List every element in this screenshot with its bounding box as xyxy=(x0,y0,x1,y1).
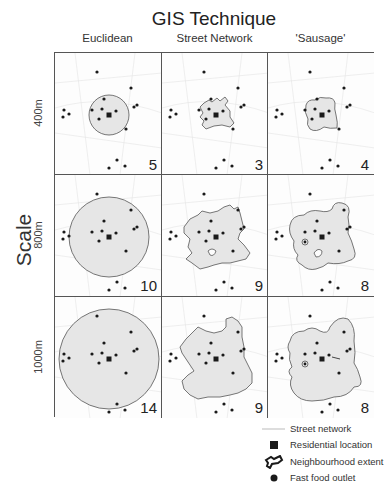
residential-location xyxy=(107,235,112,240)
map-sausage-1000m xyxy=(268,297,374,418)
outlet-count: 14 xyxy=(140,399,157,416)
outlet-count: 8 xyxy=(361,399,369,416)
map-street-network-400m xyxy=(162,53,268,175)
neighbourhood-extent xyxy=(288,318,361,401)
map-panel-sausage-400m: 4 xyxy=(267,53,374,175)
outlet-count: 10 xyxy=(140,277,157,294)
map-grid: 5 3 xyxy=(54,52,374,417)
map-panel-sausage-1000m: 8 xyxy=(267,296,374,418)
residential-location xyxy=(214,113,219,118)
map-sausage-800m xyxy=(268,175,374,296)
map-panel-euclidean-1000m: 14 xyxy=(55,296,162,418)
legend-item-street-network: Street network xyxy=(258,422,391,436)
residential-location xyxy=(320,357,325,362)
street-line-icon xyxy=(258,422,288,436)
polygon-outline-icon xyxy=(258,455,288,469)
outlet-count: 3 xyxy=(255,156,263,173)
row-label-800m: 800m xyxy=(28,174,48,296)
outlet-count: 4 xyxy=(361,156,369,173)
legend-item-fast-food-outlet: Fast food outlet xyxy=(258,471,391,485)
row-label-400m: 400m xyxy=(28,52,48,174)
residential-location xyxy=(214,235,219,240)
map-street-network-1000m xyxy=(162,297,268,418)
legend-item-neighbourhood-extent: Neighbourhood extent xyxy=(258,455,391,469)
outlet-count: 5 xyxy=(149,156,157,173)
column-header-street-network: Street Network xyxy=(161,32,268,44)
column-header-euclidean: Euclidean xyxy=(54,32,161,44)
residential-location xyxy=(107,357,112,362)
figure-title: GIS Technique xyxy=(54,8,374,30)
row-label-1000m: 1000m xyxy=(28,296,48,418)
map-panel-street-network-800m: 9 xyxy=(161,174,268,296)
residential-location xyxy=(320,235,325,240)
outlet-count: 9 xyxy=(255,399,263,416)
map-panel-street-network-400m: 3 xyxy=(161,53,268,175)
square-icon xyxy=(258,438,288,452)
map-euclidean-400m xyxy=(55,53,162,175)
outlet-count: 8 xyxy=(361,277,369,294)
map-street-network-800m xyxy=(162,175,268,296)
column-header-sausage: 'Sausage' xyxy=(267,32,374,44)
map-panel-euclidean-400m: 5 xyxy=(55,53,162,175)
map-panel-sausage-800m: 8 xyxy=(267,174,374,296)
residential-location xyxy=(320,113,325,118)
map-sausage-400m xyxy=(268,53,374,175)
map-panel-street-network-1000m: 9 xyxy=(161,296,268,418)
map-panel-euclidean-800m: 10 xyxy=(55,174,162,296)
legend-item-residential-location: Residential location xyxy=(258,438,391,452)
dot-icon xyxy=(258,471,288,485)
residential-location xyxy=(214,357,219,362)
outlet-count: 9 xyxy=(255,277,263,294)
residential-location xyxy=(107,113,112,118)
